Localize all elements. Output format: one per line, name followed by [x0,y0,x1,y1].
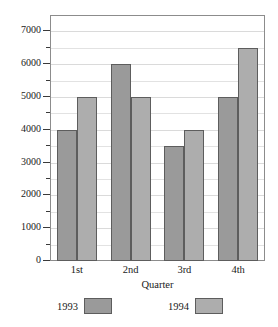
bar-group [57,15,97,261]
bar-1993-2nd [111,64,131,261]
y-axis-tick-major [43,30,50,31]
y-axis-tick-major [43,96,50,97]
y-axis-tick-major [43,162,50,163]
bar-1994-1st [77,97,97,261]
bar-1994-2nd [131,97,151,261]
bar-1993-1st [57,130,77,261]
y-axis-label: 4000 [21,124,41,134]
legend-label: 1993 [57,300,78,313]
y-axis-label: 3000 [21,157,41,167]
bar-group [111,15,151,261]
y-axis-tick-major [43,194,50,195]
y-axis-label: 0 [36,255,41,265]
y-axis-label: 1000 [21,222,41,232]
legend-entry-1994: 1994 [168,298,223,314]
legend-swatch-1993 [84,298,112,314]
x-axis-label: 1st [52,263,102,276]
bar-group [218,15,258,261]
x-axis-label: 4th [213,263,263,276]
y-axis-label: 2000 [21,189,41,199]
y-axis-label: 7000 [21,25,41,35]
x-axis-label: 2nd [106,263,156,276]
y-axis-label: 5000 [21,91,41,101]
x-axis-labels: 1st2nd3rd4th [50,263,265,277]
x-axis-title: Quarter [50,278,265,291]
y-axis-label: 6000 [21,58,41,68]
legend-swatch-1994 [195,298,223,314]
x-axis-label: 3rd [159,263,209,276]
bars-layer [50,15,265,261]
legend-entry-1993: 1993 [57,298,112,314]
bar-1993-3rd [164,146,184,261]
bar-chart: 01000200030004000500060007000 1st2nd3rd4… [0,0,278,327]
bar-1993-4th [218,97,238,261]
y-axis-tick-major [43,227,50,228]
y-axis: 01000200030004000500060007000 [0,15,50,261]
y-axis-tick-major [43,260,50,261]
bar-group [164,15,204,261]
legend-label: 1994 [168,300,189,313]
y-axis-tick-major [43,63,50,64]
bar-1994-4th [238,48,258,261]
bar-1994-3rd [184,130,204,261]
y-axis-tick-major [43,129,50,130]
chart-legend: 1993 1994 [0,298,278,322]
